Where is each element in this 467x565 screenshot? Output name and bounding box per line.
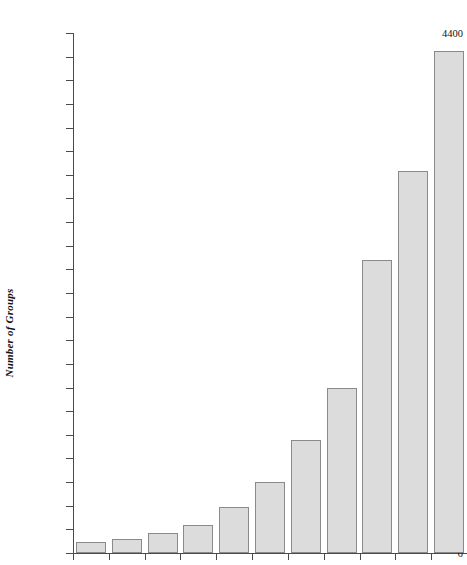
y-tick-mark [66, 128, 73, 129]
y-tick-mark [66, 317, 73, 318]
y-tick-mark [66, 57, 73, 58]
x-tick-mark [395, 554, 396, 560]
y-tick-mark [66, 222, 73, 223]
y-tick-mark [66, 364, 73, 365]
plot-area [73, 33, 467, 553]
y-tick-mark [66, 340, 73, 341]
y-tick-mark [66, 269, 73, 270]
y-tick-mark [66, 553, 73, 554]
x-tick-mark [324, 554, 325, 560]
bar [291, 440, 321, 553]
bar [183, 525, 213, 553]
y-tick-mark [66, 506, 73, 507]
x-tick-mark [431, 554, 432, 560]
x-tick-mark [109, 554, 110, 560]
bar [362, 260, 392, 553]
y-tick-mark [66, 482, 73, 483]
y-tick-mark [66, 435, 73, 436]
y-tick-mark [66, 151, 73, 152]
y-tick-mark [66, 388, 73, 389]
bar [255, 482, 285, 553]
x-tick-mark [288, 554, 289, 560]
y-tick-mark [66, 411, 73, 412]
y-tick-mark [66, 293, 73, 294]
x-tick-mark [73, 554, 74, 560]
bar [398, 171, 428, 553]
bar [219, 507, 249, 553]
y-tick-mark [66, 80, 73, 81]
bar [434, 51, 464, 553]
bar-chart: Number of Groups 02004006008001000120014… [0, 0, 467, 565]
y-tick-mark [66, 175, 73, 176]
y-tick-mark [66, 198, 73, 199]
y-tick-mark [66, 529, 73, 530]
y-tick-mark [66, 33, 73, 34]
y-tick-mark [66, 458, 73, 459]
bar [76, 542, 106, 553]
x-tick-mark [360, 554, 361, 560]
y-axis-label-text: Number of Groups [3, 289, 15, 378]
x-tick-mark [216, 554, 217, 560]
bar [327, 388, 357, 553]
x-tick-mark [252, 554, 253, 560]
y-axis-label: Number of Groups [0, 0, 18, 565]
y-tick-mark [66, 104, 73, 105]
y-tick-mark [66, 246, 73, 247]
bar [112, 539, 142, 553]
bar [148, 533, 178, 553]
x-tick-mark [145, 554, 146, 560]
x-tick-mark [180, 554, 181, 560]
